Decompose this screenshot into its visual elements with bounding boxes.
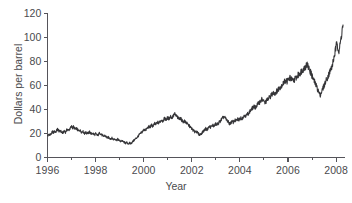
x-tick-label: 1998 (72, 164, 120, 176)
crude-oil-price-chart: 020406080100120 199619982000200220042006… (0, 0, 352, 203)
x-tick-label: 1996 (24, 164, 72, 176)
x-tick-label: 2008 (312, 164, 352, 176)
x-tick-label: 2000 (120, 164, 168, 176)
data-line-crude-oil-price (48, 25, 344, 144)
x-axis-ticks (48, 158, 337, 163)
y-axis-title: Dollars per barrel (12, 24, 24, 144)
chart-axes (48, 14, 345, 158)
x-tick-label: 2004 (216, 164, 264, 176)
x-axis-title: Year (0, 180, 352, 192)
x-tick-label: 2002 (168, 164, 216, 176)
y-tick-label: 0 (0, 151, 42, 163)
x-tick-label: 2006 (264, 164, 312, 176)
data-series-group (48, 25, 344, 144)
y-tick-label: 120 (0, 7, 42, 19)
